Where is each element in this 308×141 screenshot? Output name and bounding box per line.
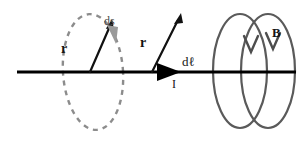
r-field-vector-shaft: [152, 20, 178, 72]
r-field-vector-arrowhead-icon: [174, 13, 183, 24]
current-direction-arrowhead-icon: [157, 63, 181, 81]
r-source-vector-shaft: [90, 26, 110, 72]
diagram-canvas: [0, 0, 308, 141]
label-ds: ds: [104, 15, 115, 27]
physics-diagram: r r ds dℓ I B: [0, 0, 308, 141]
label-dl: dℓ: [182, 55, 195, 68]
b-field-chevron-left-icon: [244, 36, 258, 52]
label-magnetic-field: B: [272, 26, 281, 39]
label-r-source: r: [61, 42, 67, 56]
label-current: I: [172, 78, 176, 90]
label-r-field: r: [140, 36, 146, 50]
